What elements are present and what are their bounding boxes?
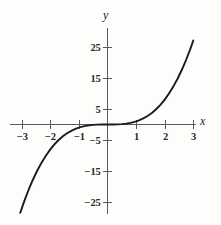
cubic-function-graph: −3−2−1123 25155−5−15−25 y x <box>0 0 221 225</box>
y-tick-label: 5 <box>95 104 100 115</box>
x-tick-label: −1 <box>74 132 85 143</box>
x-tick-label: 2 <box>163 132 168 143</box>
x-tick-label: 3 <box>191 132 196 143</box>
plot-canvas <box>0 0 221 225</box>
x-tick-label: 1 <box>134 132 139 143</box>
y-axis-label: y <box>103 9 108 21</box>
y-tick-label: −15 <box>85 166 101 177</box>
y-tick-label: 25 <box>90 42 100 53</box>
y-tick-label: −25 <box>85 197 101 208</box>
y-tick-label: −5 <box>90 135 101 146</box>
cubic-curve <box>20 40 193 212</box>
x-axis-label: x <box>200 115 205 127</box>
x-tick-label: −2 <box>45 132 56 143</box>
x-tick-label: −3 <box>17 132 28 143</box>
y-tick-label: 15 <box>90 73 100 84</box>
